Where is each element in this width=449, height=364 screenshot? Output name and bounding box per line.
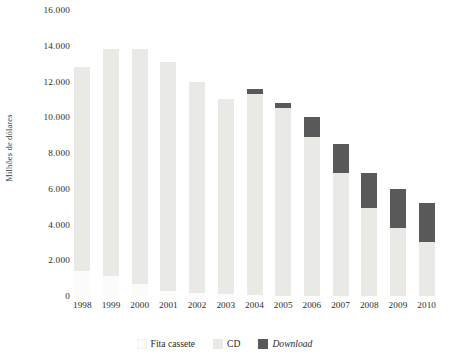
y-tick-label: 10.000 xyxy=(16,112,70,122)
bar-segment xyxy=(189,82,205,294)
legend-swatch-icon xyxy=(213,339,223,349)
bar-segment xyxy=(132,284,148,297)
bar-segment xyxy=(419,242,435,296)
bar-segment xyxy=(390,189,406,228)
bar-segment xyxy=(160,291,176,296)
bar-column xyxy=(390,10,406,296)
bar-segment xyxy=(333,144,349,173)
bar-segment xyxy=(74,271,90,296)
legend-swatch-icon xyxy=(258,339,268,349)
bar-segment xyxy=(103,276,119,296)
x-tick-label: 2010 xyxy=(409,300,445,310)
y-axis-title-text: Milhões de dólares xyxy=(4,114,14,181)
y-tick-label: 4.000 xyxy=(16,220,70,230)
legend-label: CD xyxy=(227,338,240,349)
bar-segment xyxy=(419,203,435,242)
bar-column xyxy=(132,10,148,296)
y-tick-label: 0 xyxy=(16,291,70,301)
plot-area xyxy=(68,10,441,296)
bar-column xyxy=(103,10,119,296)
y-tick-label: 8.000 xyxy=(16,148,70,158)
bar-column xyxy=(419,10,435,296)
bar-segment xyxy=(304,117,320,137)
y-tick-label: 2.000 xyxy=(16,255,70,265)
legend-swatch-icon xyxy=(137,339,147,349)
bar-column xyxy=(333,10,349,296)
bar-segment xyxy=(304,137,320,296)
legend-label: Fita cassete xyxy=(151,338,196,349)
bar-column xyxy=(74,10,90,296)
y-axis-title: Milhões de dólares xyxy=(2,0,16,296)
bar-column xyxy=(275,10,291,296)
bar-segment xyxy=(247,295,263,296)
bar-segment xyxy=(132,49,148,283)
bar-chart: Milhões de dólares 16.00014.00012.00010.… xyxy=(0,0,449,364)
y-tick-label: 6.000 xyxy=(16,184,70,194)
bar-segment xyxy=(74,67,90,271)
bar-segment xyxy=(160,62,176,291)
bar-column xyxy=(304,10,320,296)
legend-item[interactable]: Fita cassete xyxy=(137,338,196,349)
bar-segment xyxy=(275,108,291,296)
y-tick-label: 14.000 xyxy=(16,41,70,51)
y-tick-label: 16.000 xyxy=(16,5,70,15)
bar-segment xyxy=(361,208,377,296)
bar-segment xyxy=(218,294,234,296)
bar-column xyxy=(247,10,263,296)
chart-legend: Fita casseteCDDownload xyxy=(0,338,449,349)
bar-segment xyxy=(361,173,377,209)
legend-item[interactable]: CD xyxy=(213,338,240,349)
legend-label: Download xyxy=(272,338,312,349)
bar-segment xyxy=(218,99,234,294)
y-tick-label: 12.000 xyxy=(16,77,70,87)
bar-column xyxy=(189,10,205,296)
bar-column xyxy=(361,10,377,296)
bar-segment xyxy=(247,94,263,295)
bar-segment xyxy=(333,173,349,296)
bar-segment xyxy=(189,293,205,296)
bar-column xyxy=(218,10,234,296)
bar-segment xyxy=(390,228,406,296)
bar-segment xyxy=(247,89,263,94)
bar-column xyxy=(160,10,176,296)
bar-segment xyxy=(103,49,119,276)
legend-item[interactable]: Download xyxy=(258,338,312,349)
bar-segment xyxy=(275,103,291,108)
